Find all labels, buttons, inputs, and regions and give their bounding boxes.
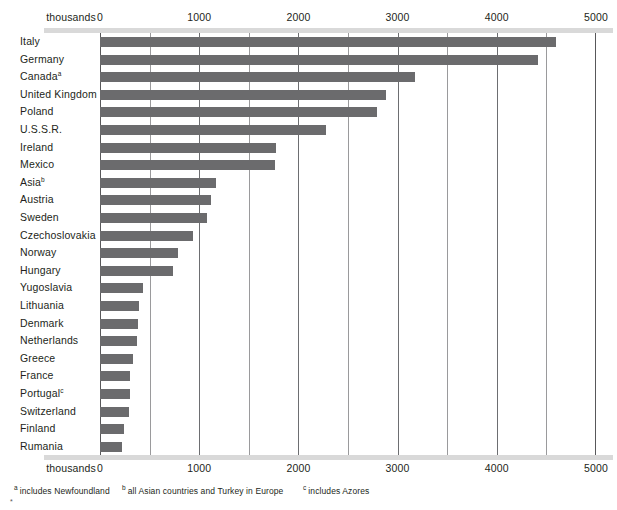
x-tick-label-top-3000: 3000 [386,11,410,23]
bar [100,37,556,47]
bar-row: Finland [0,420,617,438]
x-axis-top: thousands 010002000300040005000 [0,11,617,25]
category-label-netherlands: Netherlands [20,334,78,346]
category-label-france: France [20,369,54,381]
bar-row: Italy [0,33,617,51]
bar [100,371,130,381]
bar [100,319,138,329]
bar-row: Rumania [0,438,617,456]
bar-row: Asiab [0,174,617,192]
bar [100,442,122,452]
footnote-mark-a: a [58,70,62,77]
category-label-yugoslavia: Yugoslavia [20,281,72,293]
category-label-czechoslovakia: Czechoslovakia [20,229,96,241]
footnote-mark-c: c [303,484,306,491]
category-label-greece: Greece [20,352,55,364]
bar-row: Canadaa [0,68,617,86]
bar [100,178,216,188]
bar [100,160,275,170]
category-label-asia: Asiab [20,176,45,188]
bar-row: Switzerland [0,403,617,421]
footnote-a: aincludes Newfoundland [14,486,110,496]
bar-row: Denmark [0,315,617,333]
bar-row: Netherlands [0,332,617,350]
x-tick-label-top-2000: 2000 [286,11,310,23]
bar-row: Hungary [0,262,617,280]
bar-row: Austria [0,191,617,209]
bar-row: Mexico [0,156,617,174]
bar [100,354,133,364]
bar [100,55,538,65]
bar [100,301,139,311]
bar [100,336,137,346]
category-label-lithuania: Lithuania [20,299,64,311]
x-tick-label-bottom-1000: 1000 [187,462,211,474]
x-axis-bottom: thousands 010002000300040005000 [0,462,617,476]
bar-row: France [0,367,617,385]
footnote-mark-b: b [122,484,126,491]
x-tick-label-bottom-3000: 3000 [386,462,410,474]
category-label-austria: Austria [20,193,54,205]
bar-row: U.S.S.R. [0,121,617,139]
category-label-italy: Italy [20,35,40,47]
bar [100,90,386,100]
axis-rule-bottom [44,455,613,460]
footnote-mark-b: b [41,175,45,182]
category-label-canada: Canadaa [20,70,61,82]
bar [100,195,211,205]
x-tick-label-top-5000: 5000 [584,11,608,23]
bar-row: Portugalc [0,385,617,403]
bar-row: Norway [0,244,617,262]
category-label-rumania: Rumania [20,440,63,452]
x-tick-label-top-0: 0 [97,11,103,23]
x-tick-label-top-4000: 4000 [485,11,509,23]
bar-row: United Kingdom [0,86,617,104]
category-label-ireland: Ireland [20,141,53,153]
category-label-switzerland: Switzerland [20,405,76,417]
bar [100,125,326,135]
bar-row: Greece [0,350,617,368]
bar [100,231,193,241]
bar-chart: thousands 010002000300040005000 ItalyGer… [0,0,617,510]
x-tick-label-bottom-2000: 2000 [286,462,310,474]
bar [100,283,143,293]
bar [100,248,178,258]
category-label-mexico: Mexico [20,158,54,170]
category-label-germany: Germany [20,53,64,65]
category-label-united-kingdom: United Kingdom [20,88,97,100]
footnote-c: cincludes Azores [303,486,369,496]
category-label-poland: Poland [20,105,54,117]
category-label-sweden: Sweden [20,211,59,223]
x-tick-label-bottom-4000: 4000 [485,462,509,474]
x-tick-label-bottom-0: 0 [97,462,103,474]
bar [100,389,130,399]
category-label-portugal: Portugalc [20,387,64,399]
stray-mark: * [10,498,13,505]
category-label-u-s-s-r: U.S.S.R. [20,123,62,135]
category-label-finland: Finland [20,422,56,434]
x-axis-unit-label-bottom: thousands [46,462,96,474]
category-label-denmark: Denmark [20,317,64,329]
bar [100,424,124,434]
category-label-hungary: Hungary [20,264,61,276]
x-tick-label-bottom-5000: 5000 [584,462,608,474]
bar-row: Yugoslavia [0,279,617,297]
footnote-mark-a: a [14,484,18,491]
bar [100,143,276,153]
bar [100,213,207,223]
bar-row: Czechoslovakia [0,227,617,245]
footnote-b: ball Asian countries and Turkey in Europ… [122,486,283,496]
bar-row: Poland [0,103,617,121]
category-label-norway: Norway [20,246,57,258]
bar-row: Germany [0,51,617,69]
bar [100,266,173,276]
footnote-mark-c: c [60,387,63,394]
x-axis-unit-label-top: thousands [46,11,96,23]
bar-row: Sweden [0,209,617,227]
bar [100,72,415,82]
bar-row: Ireland [0,139,617,157]
bar [100,407,129,417]
bar [100,107,377,117]
x-tick-label-top-1000: 1000 [187,11,211,23]
footnotes: aincludes Newfoundlandball Asian countri… [0,486,617,500]
